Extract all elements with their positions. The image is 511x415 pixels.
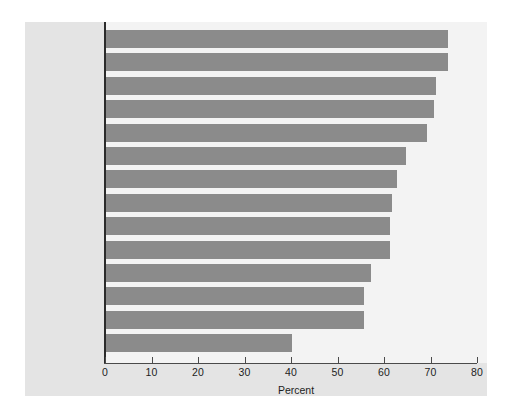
bar[interactable] xyxy=(106,30,448,48)
bar[interactable] xyxy=(106,100,434,118)
x-axis-tick-label: 30 xyxy=(225,366,265,378)
bar[interactable] xyxy=(106,241,390,259)
bar[interactable] xyxy=(106,311,364,329)
x-axis-tick-mark xyxy=(431,357,432,363)
x-axis-tick-label: 20 xyxy=(178,366,218,378)
bar[interactable] xyxy=(106,147,406,165)
bar[interactable] xyxy=(106,334,292,352)
bar[interactable] xyxy=(106,194,392,212)
x-axis-tick-label: 0 xyxy=(85,366,125,378)
x-axis-tick-mark xyxy=(245,357,246,363)
x-axis-tick-label: 40 xyxy=(271,366,311,378)
bar[interactable] xyxy=(106,264,371,282)
x-axis-tick-mark xyxy=(291,357,292,363)
x-axis-title: Percent xyxy=(105,384,487,396)
x-axis-tick-label: 10 xyxy=(132,366,172,378)
x-axis-tick-mark xyxy=(105,357,106,363)
x-axis-tick-mark xyxy=(198,357,199,363)
bar[interactable] xyxy=(106,53,448,71)
value-axis-line xyxy=(104,363,477,364)
x-axis-tick-mark xyxy=(384,357,385,363)
bar[interactable] xyxy=(106,77,436,95)
x-axis-tick-label: 60 xyxy=(364,366,404,378)
x-axis-tick-mark xyxy=(477,357,478,363)
x-axis-tick-label: 50 xyxy=(318,366,358,378)
x-axis-tick-mark xyxy=(338,357,339,363)
x-axis-tick-label: 70 xyxy=(411,366,451,378)
bar[interactable] xyxy=(106,287,364,305)
bar[interactable] xyxy=(106,217,390,235)
x-axis-tick-mark xyxy=(152,357,153,363)
x-axis-tick-label: 80 xyxy=(457,366,497,378)
bar-chart-figure: KoreaTaiwanSwitzerlandSoviet Union, form… xyxy=(0,0,511,415)
bar[interactable] xyxy=(106,124,427,142)
bar[interactable] xyxy=(106,170,397,188)
